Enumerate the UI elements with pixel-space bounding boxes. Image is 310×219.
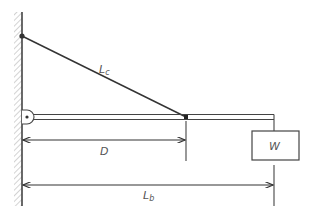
beam	[22, 110, 274, 131]
cable-label: Lc	[99, 63, 110, 77]
cable-anchor-point	[19, 33, 24, 38]
dimension-lb-label: Lb	[143, 189, 154, 203]
dimension-d: D	[23, 121, 186, 161]
weight-label: W	[269, 140, 281, 153]
cable-line	[22, 36, 186, 117]
beam-cable-diagram: Lc D W Lb	[0, 0, 310, 219]
wall-hatching	[14, 12, 22, 206]
hinge-pin	[25, 115, 28, 118]
weight: W	[252, 131, 299, 160]
cable-beam-connection	[184, 115, 188, 119]
dimension-lb: Lb	[23, 165, 274, 206]
cable: Lc	[19, 33, 186, 117]
dimension-d-label: D	[100, 145, 108, 158]
wall	[14, 12, 22, 206]
